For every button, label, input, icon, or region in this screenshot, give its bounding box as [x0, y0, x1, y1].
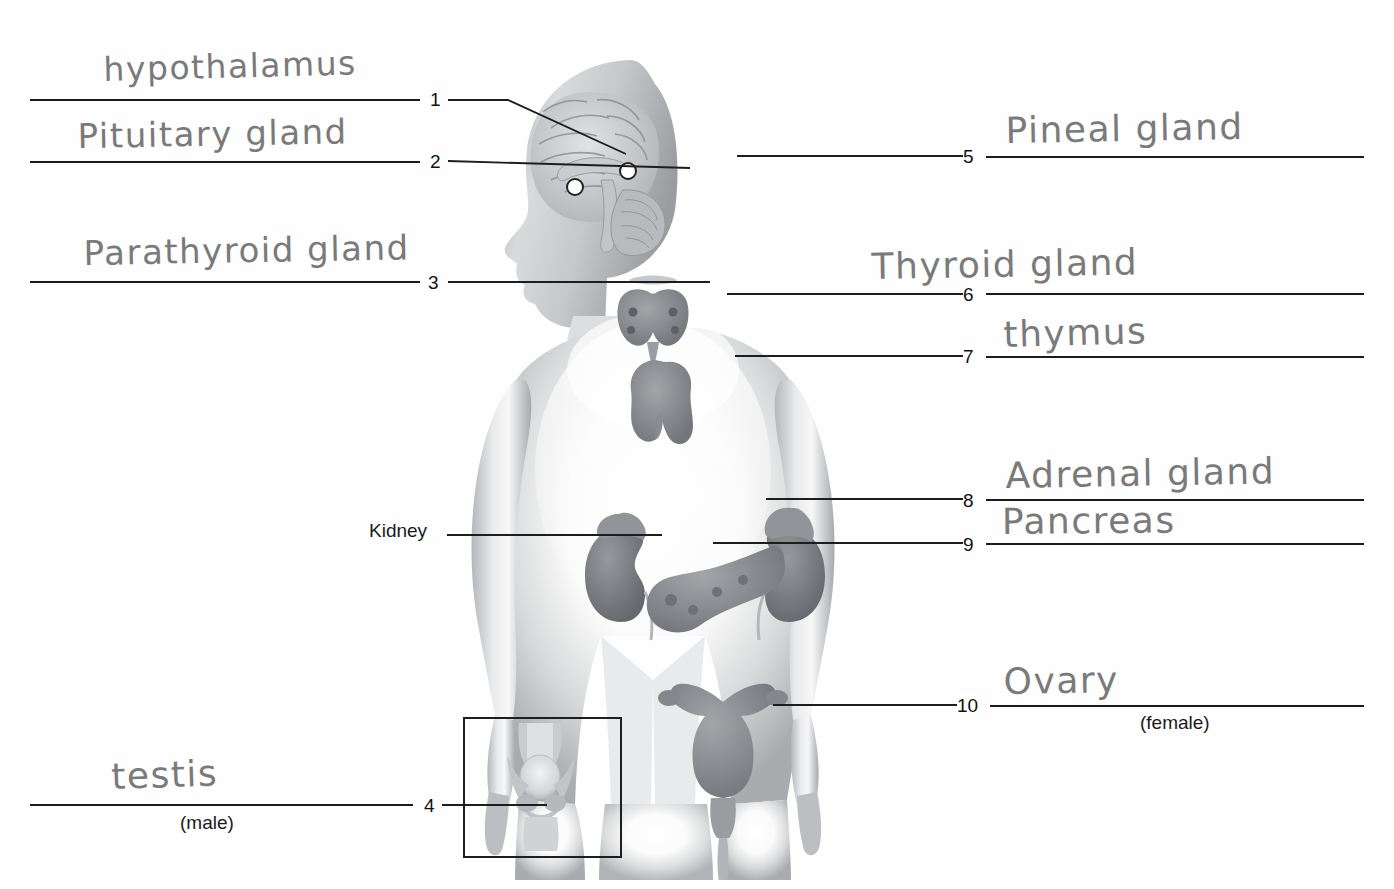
- pointer-2: [448, 150, 698, 190]
- leader-line-2: [30, 161, 420, 163]
- leader-line-1: [30, 99, 420, 101]
- leader-line-9: [986, 543, 1364, 545]
- pointer-9: [713, 542, 963, 544]
- answer-2: Pituitary gland: [77, 111, 348, 156]
- pointer-8: [766, 498, 963, 500]
- answer-5: Pineal gland: [1005, 106, 1244, 151]
- label-number-8: 8: [963, 490, 974, 512]
- kidney-label: Kidney: [369, 520, 427, 542]
- label-number-9: 9: [963, 534, 974, 556]
- answer-9: Pancreas: [1002, 499, 1176, 542]
- label-number-6: 6: [963, 284, 974, 306]
- worksheet-sheet: 1 hypothalamus 2 Pituitary gland 3 Parat…: [0, 0, 1394, 889]
- male-inset-box: [463, 717, 622, 858]
- pointer-6: [727, 293, 963, 295]
- label-number-3: 3: [428, 272, 439, 294]
- pointer-3: [448, 281, 710, 283]
- answer-7: thymus: [1003, 310, 1148, 355]
- answer-4: testis: [111, 752, 219, 797]
- label-number-1: 1: [430, 89, 441, 111]
- answer-3: Parathyroid gland: [83, 227, 410, 273]
- label-number-5: 5: [963, 146, 974, 168]
- leader-line-10: [990, 705, 1364, 707]
- answer-6: Thyroid gland: [871, 241, 1138, 287]
- ovary-left: [658, 690, 680, 706]
- leader-line-6: [986, 293, 1364, 295]
- leader-line-5: [986, 156, 1364, 158]
- leader-line-4: [30, 804, 413, 806]
- answer-1: hypothalamus: [103, 43, 357, 89]
- pointer-kidney: [447, 534, 662, 536]
- testis-right: [544, 794, 566, 812]
- male-note: (male): [180, 812, 234, 834]
- female-note: (female): [1140, 712, 1210, 734]
- leader-line-7: [986, 356, 1364, 358]
- pointer-5: [737, 155, 963, 157]
- pointer-7: [735, 355, 963, 357]
- label-number-4: 4: [424, 795, 435, 817]
- leader-line-3: [30, 281, 420, 283]
- label-number-2: 2: [430, 151, 441, 173]
- testis-left: [516, 794, 538, 812]
- pointer-10: [773, 704, 957, 706]
- pointer-4: [442, 804, 547, 806]
- answer-8: Adrenal gland: [1005, 450, 1275, 496]
- answer-10: Ovary: [1003, 659, 1119, 702]
- label-number-7: 7: [963, 346, 974, 368]
- label-number-10: 10: [957, 695, 978, 717]
